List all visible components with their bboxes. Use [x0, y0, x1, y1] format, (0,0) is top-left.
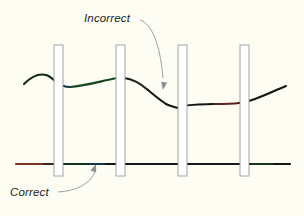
correct-label: Correct: [10, 186, 49, 198]
incorrect-curve-segment: [214, 103, 239, 104]
incorrect-label: Incorrect: [84, 12, 131, 24]
canvas-background: [0, 0, 304, 216]
plate-1: [54, 45, 63, 176]
plate-4: [240, 45, 249, 176]
plate-2: [116, 45, 125, 176]
diagram-svg: Incorrect Correct: [0, 0, 304, 216]
plate-3: [178, 45, 187, 176]
diagram-canvas: Incorrect Correct: [0, 0, 304, 216]
